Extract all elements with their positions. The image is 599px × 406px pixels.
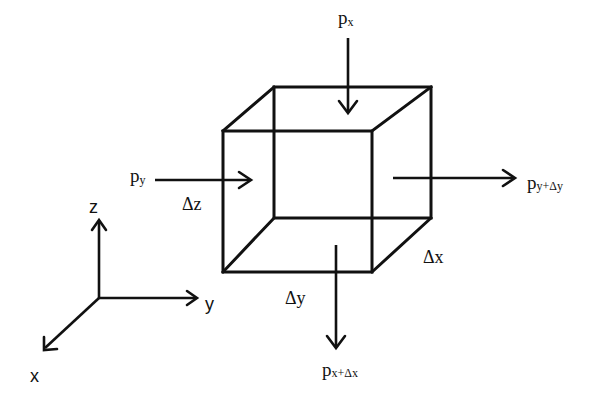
- arrow-py: [155, 172, 251, 188]
- cube: [223, 87, 431, 272]
- axis-label-z: z: [89, 197, 98, 217]
- arrow-py-dy: [393, 170, 515, 186]
- label-dx: Δx: [423, 247, 444, 267]
- cube-edge-top-left: [223, 87, 274, 131]
- label-dz: Δz: [182, 194, 202, 214]
- arrow-px-dx: [327, 245, 345, 348]
- x-axis: [45, 298, 99, 348]
- control-volume-diagram: px py py+Δy px+Δx Δz Δy Δx z y x: [0, 0, 599, 406]
- arrow-px: [339, 38, 357, 113]
- label-py-dy: py+Δy: [527, 172, 563, 193]
- axis-label-x: x: [30, 366, 39, 386]
- cube-edge-bottom-left: [223, 218, 274, 272]
- axis-label-y: y: [205, 294, 214, 314]
- label-dy: Δy: [285, 288, 306, 308]
- cube-edge-top-right: [372, 87, 431, 131]
- label-px-dx: px+Δx: [322, 359, 358, 380]
- coordinate-axes: [44, 220, 197, 350]
- cube-front-face: [223, 131, 372, 272]
- label-py: py: [130, 165, 146, 187]
- label-px: px: [338, 7, 354, 29]
